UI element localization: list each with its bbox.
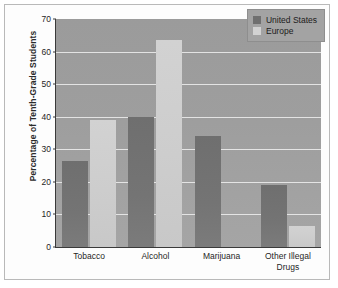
y-axis-tick-label: 10 [29, 209, 51, 219]
x-axis-category-label: Alcohol [122, 251, 188, 262]
y-axis-tick-mark [53, 214, 56, 215]
y-axis-tick-mark [53, 19, 56, 20]
y-axis-tick-mark [53, 181, 56, 182]
bar-group [255, 19, 321, 247]
chart-legend: United StatesEurope [247, 9, 325, 42]
y-axis-tick-mark [53, 247, 56, 248]
x-axis-category-label-line: Drugs [255, 262, 321, 273]
x-axis-category-label-line: Other Illegal [255, 251, 321, 262]
figure-frame: Percentage of Tenth-Grade Students 01020… [4, 4, 330, 280]
y-axis-tick-label: 50 [29, 79, 51, 89]
legend-item[interactable]: United States [253, 15, 317, 25]
x-axis-category-label-line: Alcohol [122, 251, 188, 262]
y-axis-tick-label: 70 [29, 14, 51, 24]
y-axis-tick-mark [53, 51, 56, 52]
x-axis-category-label: Marijuana [189, 251, 255, 262]
x-axis-line [55, 247, 321, 248]
y-axis-tick-label: 30 [29, 144, 51, 154]
y-axis-tick-label: 40 [29, 112, 51, 122]
x-axis-category-labels: TobaccoAlcoholMarijuanaOther IllegalDrug… [56, 251, 321, 279]
legend-item[interactable]: Europe [253, 26, 317, 36]
y-axis-tick-label: 0 [29, 242, 51, 252]
y-axis-tick-mark [53, 84, 56, 85]
bar-group [56, 19, 122, 247]
x-axis-category-label: Other IllegalDrugs [255, 251, 321, 273]
legend-swatch-icon [253, 16, 261, 24]
legend-swatch-icon [253, 27, 261, 35]
y-axis-tick-mark [53, 116, 56, 117]
bars-layer [56, 19, 321, 247]
x-axis-category-label: Tobacco [56, 251, 122, 262]
bar [289, 226, 315, 247]
y-axis-tick-label: 60 [29, 47, 51, 57]
bar-group [189, 19, 255, 247]
bar [62, 161, 88, 247]
legend-item-label: Europe [266, 26, 293, 36]
bar [128, 117, 154, 247]
legend-item-label: United States [266, 15, 317, 25]
x-axis-category-label-line: Marijuana [189, 251, 255, 262]
bar [90, 120, 116, 247]
bar [195, 136, 221, 247]
bar [156, 40, 182, 247]
y-axis-tick-labels: 010203040506070 [29, 19, 51, 247]
plot-area [56, 19, 321, 247]
x-axis-category-label-line: Tobacco [56, 251, 122, 262]
bar-group [122, 19, 188, 247]
y-axis-tick-label: 20 [29, 177, 51, 187]
bar [261, 185, 287, 247]
y-axis-tick-mark [53, 149, 56, 150]
